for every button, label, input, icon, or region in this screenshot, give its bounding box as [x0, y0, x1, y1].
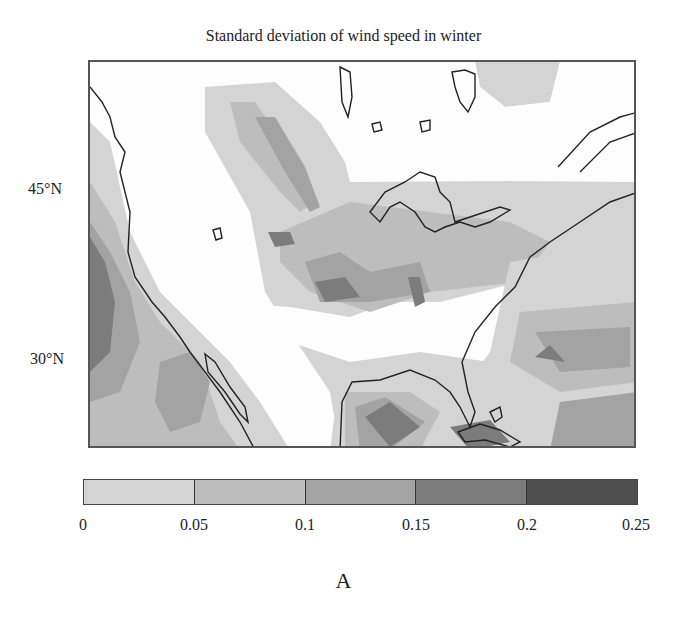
map-plot-area	[88, 60, 636, 448]
colorbar	[83, 479, 638, 505]
panel-label: A	[0, 568, 687, 594]
colorbar-tick-3: 0.15	[402, 516, 430, 534]
colorbar-level-1	[84, 480, 195, 504]
contour-map	[90, 62, 636, 448]
lat-label-30n: 30°N	[30, 350, 64, 368]
colorbar-level-4	[416, 480, 527, 504]
colorbar-tick-4: 0.2	[517, 516, 537, 534]
colorbar-level-2	[195, 480, 306, 504]
colorbar-tick-5: 0.25	[622, 516, 650, 534]
colorbar-tick-2: 0.1	[295, 516, 315, 534]
colorbar-level-5	[527, 480, 637, 504]
colorbar-tick-1: 0.05	[180, 516, 208, 534]
colorbar-tick-0: 0	[79, 516, 87, 534]
chart-title: Standard deviation of wind speed in wint…	[0, 27, 687, 45]
colorbar-level-3	[306, 480, 417, 504]
lat-label-45n: 45°N	[28, 180, 62, 198]
